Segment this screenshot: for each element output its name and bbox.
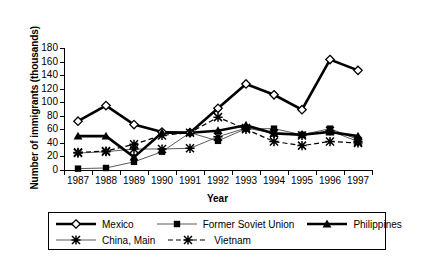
data-point-star-x	[297, 141, 306, 150]
series-line-mexico	[78, 60, 358, 133]
legend-item-philippines[interactable]: Philippines	[306, 217, 401, 231]
legend-item-former-soviet-union[interactable]: Former Soviet Union	[156, 217, 295, 231]
x-tick-mark	[232, 171, 233, 175]
data-point-star-x	[269, 137, 278, 146]
y-tick-label: 80	[28, 111, 58, 121]
data-point-star-x	[185, 144, 194, 153]
x-tick-mark	[316, 171, 317, 175]
data-point-square-filled	[103, 165, 109, 171]
legend-label: China, Main	[102, 235, 155, 246]
x-axis-line	[64, 170, 373, 171]
legend-swatch-star-x	[55, 233, 97, 247]
y-tick-label: 20	[28, 151, 58, 161]
chart-legend: MexicoFormer Soviet UnionPhilippines Chi…	[48, 212, 386, 250]
x-tick-mark	[344, 171, 345, 175]
legend-row-1: MexicoFormer Soviet UnionPhilippines	[55, 216, 402, 232]
x-tick-mark	[92, 171, 93, 175]
data-point-star-x	[353, 138, 362, 147]
legend-row-2: China, MainVietnam	[55, 232, 251, 248]
data-point-diamond-open	[354, 66, 362, 74]
x-axis-title: Year	[0, 193, 435, 204]
data-point-star-x	[325, 137, 334, 146]
x-tick-mark	[260, 171, 261, 175]
immigration-line-chart: Number of immigrants (thousands) 0204060…	[0, 0, 435, 257]
data-point-star-x	[129, 140, 138, 149]
x-tick-mark	[176, 171, 177, 175]
data-point-star-x	[101, 146, 110, 155]
data-point-diamond-open	[72, 220, 80, 228]
legend-item-vietnam[interactable]: Vietnam	[167, 233, 251, 247]
legend-swatch-star-x	[167, 233, 209, 247]
legend-label: Vietnam	[214, 235, 251, 246]
legend-swatch-triangle-filled	[306, 217, 348, 231]
y-tick-label: 60	[28, 124, 58, 134]
y-tick-label: 40	[28, 138, 58, 148]
plot-area	[64, 48, 372, 170]
legend-label: Mexico	[102, 219, 134, 230]
legend-item-china-main[interactable]: China, Main	[55, 233, 155, 247]
x-tick-mark	[204, 171, 205, 175]
x-tick-mark	[120, 171, 121, 175]
legend-swatch-square-filled	[156, 217, 198, 231]
data-point-square-filled	[75, 165, 81, 171]
legend-item-mexico[interactable]: Mexico	[55, 217, 134, 231]
data-point-star-x	[213, 113, 222, 122]
y-tick-label: 0	[28, 165, 58, 175]
data-series-layer	[64, 48, 372, 170]
x-tick-mark	[64, 171, 65, 175]
legend-label: Former Soviet Union	[203, 219, 295, 230]
data-point-star-x	[73, 148, 82, 157]
x-tick-mark	[288, 171, 289, 175]
data-point-star-x	[157, 144, 166, 153]
x-tick-label: 1997	[338, 176, 378, 186]
y-tick-label: 180	[28, 43, 58, 53]
data-point-square-filled	[173, 221, 179, 227]
x-tick-mark	[372, 171, 373, 175]
y-tick-label: 140	[28, 70, 58, 80]
y-tick-label: 120	[28, 84, 58, 94]
legend-swatch-diamond-open	[55, 217, 97, 231]
legend-label: Philippines	[353, 219, 401, 230]
y-tick-label: 100	[28, 97, 58, 107]
data-point-star-x	[71, 235, 80, 244]
data-point-star-x	[184, 235, 193, 244]
x-tick-mark	[148, 171, 149, 175]
y-tick-label: 160	[28, 57, 58, 67]
